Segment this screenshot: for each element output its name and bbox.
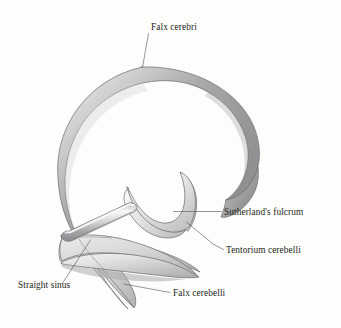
tentorium-cerebelli-sheet bbox=[59, 235, 200, 282]
leader-tentorium-cerebelli bbox=[187, 222, 224, 250]
label-tentorium-cerebelli: Tentorium cerebelli bbox=[226, 245, 301, 255]
label-falx-cerebelli: Falx cerebelli bbox=[173, 288, 226, 298]
label-falx-cerebri: Falx cerebri bbox=[151, 22, 197, 32]
label-straight-sinus: Straight sinus bbox=[18, 280, 71, 290]
anatomy-figure: Falx cerebri Sutherland's fulcrum Tentor… bbox=[0, 0, 341, 328]
anatomy-diagram-canvas: Falx cerebri Sutherland's fulcrum Tentor… bbox=[0, 0, 341, 328]
leader-falx-cerebri bbox=[143, 34, 149, 68]
label-sutherlands-fulcrum: Sutherland's fulcrum bbox=[224, 207, 304, 217]
